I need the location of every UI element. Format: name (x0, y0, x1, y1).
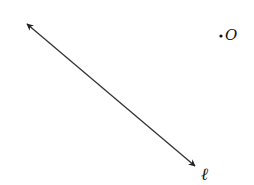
point-label: O (225, 26, 237, 44)
double-arrow-line (27, 24, 195, 166)
point-dot (219, 34, 222, 37)
line-l: ℓ (27, 24, 208, 184)
point-o: O (219, 26, 237, 44)
diagram-canvas: ℓ O (0, 0, 254, 185)
line-label: ℓ (201, 164, 208, 184)
